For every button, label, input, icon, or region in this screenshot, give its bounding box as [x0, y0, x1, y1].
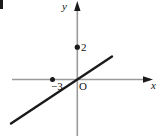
coordinate-plane — [0, 0, 160, 136]
origin-label: O — [79, 81, 87, 92]
y-intercept-label: 2 — [81, 42, 87, 53]
x-intercept-label: −3 — [51, 81, 63, 92]
x-axis-label: x — [151, 80, 156, 91]
graph-figure: y x 2 −3 O — [0, 0, 160, 136]
y-axis-arrow-icon — [74, 1, 80, 11]
y-intercept-point — [75, 45, 80, 50]
y-axis-label: y — [62, 1, 67, 12]
